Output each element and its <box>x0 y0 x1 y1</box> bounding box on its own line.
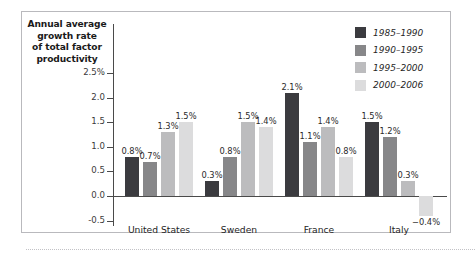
y-axis-title-line-4: productivity <box>24 54 110 66</box>
legend-item[interactable]: 2000–2006 <box>355 77 451 95</box>
legend-item[interactable]: 1985–1990 <box>355 24 451 42</box>
bar <box>321 127 335 196</box>
y-axis-title-line-3: of total factor <box>24 42 110 54</box>
legend-label: 1995–2000 <box>373 63 423 73</box>
legend-swatch-icon <box>355 62 366 73</box>
bar-group: 0.8%0.7%1.3%1.5%United States <box>125 24 193 226</box>
bar <box>241 122 255 196</box>
bar <box>339 157 353 196</box>
bar-group: 2.1%1.1%1.4%0.8%France <box>285 24 353 226</box>
bar-value-label: 0.8% <box>331 146 361 156</box>
bar <box>285 93 299 196</box>
y-tick-label: 1.5 <box>57 116 105 126</box>
bottom-rule <box>26 249 475 250</box>
bar <box>383 137 397 196</box>
bar <box>179 122 193 196</box>
legend-swatch-icon <box>355 80 366 91</box>
bar-value-label: 2.1% <box>277 82 307 92</box>
bar-value-label: 1.2% <box>375 126 405 136</box>
chart-figure: Annual average growth rate of total fact… <box>0 0 475 259</box>
bar <box>259 127 273 196</box>
category-label: Italy <box>343 224 455 235</box>
y-tick-label: 0.5 <box>57 165 105 175</box>
legend-label: 1985–1990 <box>373 28 423 38</box>
legend-label: 2000–2006 <box>373 80 423 90</box>
bar <box>303 142 317 196</box>
bar <box>143 162 157 196</box>
bar <box>419 196 433 216</box>
bar <box>161 132 175 196</box>
chart-legend: 1985–19901990–19951995–20002000–2006 <box>355 24 451 94</box>
bar-value-label: 1.5% <box>357 111 387 121</box>
legend-swatch-icon <box>355 27 366 38</box>
bar-value-label: 1.5% <box>171 111 201 121</box>
bar-value-label: 0.3% <box>393 170 423 180</box>
legend-swatch-icon <box>355 45 366 56</box>
bar <box>125 157 139 196</box>
legend-label: 1990–1995 <box>373 45 423 55</box>
y-tick-label: 2.0 <box>57 92 105 102</box>
y-tick-label: 1.0 <box>57 141 105 151</box>
bar <box>223 157 237 196</box>
y-axis-title: Annual average growth rate of total fact… <box>24 19 110 65</box>
legend-item[interactable]: 1995–2000 <box>355 59 451 77</box>
legend-item[interactable]: 1990–1995 <box>355 42 451 60</box>
y-tick-label: 2.5% <box>57 67 105 77</box>
bar <box>401 181 415 196</box>
y-axis-title-line-2: growth rate <box>24 31 110 43</box>
y-tick-label: 0.0 <box>57 190 105 200</box>
bar-value-label: 1.4% <box>251 116 281 126</box>
bar <box>205 181 219 196</box>
bar-value-label: 1.4% <box>313 116 343 126</box>
y-tick-label: -0.5 <box>57 215 105 225</box>
bar-group: 0.3%0.8%1.5%1.4%Sweden <box>205 24 273 226</box>
y-axis-title-line-1: Annual average <box>24 19 110 31</box>
